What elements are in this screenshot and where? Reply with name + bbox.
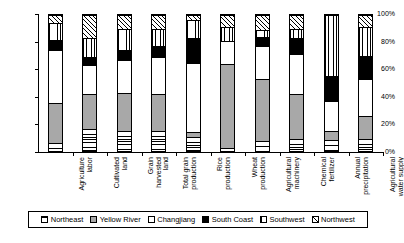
x-axis-label: Grain harvested land <box>147 157 170 203</box>
x-tick-mark <box>176 153 177 156</box>
x-axis-label: Cultivated land <box>113 157 128 203</box>
bar-segment-southwest <box>118 29 131 51</box>
legend-label: South Coast <box>212 216 253 224</box>
bar-segment-changjiang <box>359 79 372 116</box>
x-axis-label: Total grain production <box>182 157 197 203</box>
x-tick-mark <box>383 153 384 156</box>
bar-segment-northeast <box>256 141 269 151</box>
bar-grain-harvested-land <box>117 14 132 152</box>
bar-segment-southwest <box>290 29 303 39</box>
x-tick-mark <box>314 153 315 156</box>
x-tick-mark <box>107 153 108 156</box>
bar-segment-northwest <box>256 15 269 30</box>
bar-segment-yellow-river <box>83 94 96 129</box>
bar-cultivated-land <box>82 14 97 152</box>
legend-swatch-icon <box>90 216 97 223</box>
legend-label: Northeast <box>51 216 84 224</box>
bar-segment-changjiang <box>83 65 96 94</box>
legend-swatch-icon <box>41 216 48 223</box>
legend-item-northwest[interactable]: Northwest <box>312 216 355 224</box>
bar-segment-south-coast <box>152 46 165 57</box>
bar-segment-south-coast <box>325 76 338 100</box>
legend-swatch-icon <box>148 216 155 223</box>
legend-item-southwest[interactable]: Southwest <box>260 216 305 224</box>
bar-segment-northwest <box>83 15 96 38</box>
bar-segment-northeast <box>221 148 234 151</box>
x-tick-mark <box>73 153 74 156</box>
bar-segment-northwest <box>290 15 303 29</box>
bar-segment-changjiang <box>290 54 303 93</box>
bar-agriculture-labor <box>48 14 63 152</box>
bar-segment-yellow-river <box>221 64 234 148</box>
bar-segment-changjiang <box>152 57 165 94</box>
bar-segment-south-coast <box>49 40 62 51</box>
bar-segment-northwest <box>359 15 372 27</box>
bar-segment-yellow-river <box>325 131 338 141</box>
bar-segment-yellow-river <box>359 116 372 139</box>
bar-rice-production <box>186 14 201 152</box>
bar-segment-changjiang <box>256 46 269 79</box>
bar-segment-changjiang <box>118 60 131 93</box>
y-tick-mark <box>35 152 38 153</box>
bar-segment-south-coast <box>256 37 269 47</box>
bar-segment-southwest <box>152 29 165 47</box>
x-axis-label: Wheat production <box>251 157 266 203</box>
bar-segment-northeast <box>118 131 131 151</box>
legend-item-yellow-river[interactable]: Yellow River <box>90 216 141 224</box>
x-tick-mark <box>280 153 281 156</box>
bar-segment-northeast <box>49 143 62 151</box>
bar-segment-changjiang <box>325 101 338 131</box>
legend-swatch-icon <box>312 216 319 223</box>
bar-segment-northwest <box>49 15 62 23</box>
legend-item-northeast[interactable]: Northeast <box>41 216 83 224</box>
legend-label: Changjiang <box>157 216 195 224</box>
chart-legend: NortheastYellow RiverChangjiangSouth Coa… <box>28 211 368 228</box>
bar-segment-southwest <box>49 23 62 39</box>
legend-label: Yellow River <box>100 216 141 224</box>
legend-item-south-coast[interactable]: South Coast <box>202 216 253 224</box>
bar-segment-southwest <box>221 27 234 41</box>
x-tick-mark <box>245 153 246 156</box>
bar-segment-yellow-river <box>49 103 62 142</box>
bar-segment-changjiang <box>49 50 62 103</box>
bar-segment-changjiang <box>187 63 200 132</box>
bar-wheat-production <box>220 14 235 152</box>
bar-segment-yellow-river <box>152 94 165 131</box>
x-tick-mark <box>142 153 143 156</box>
bar-segment-northeast <box>187 137 200 151</box>
bar-segment-northeast <box>83 129 96 151</box>
bar-segment-southwest <box>83 38 96 57</box>
x-axis-label: Rice production <box>216 157 231 203</box>
bar-segment-northeast <box>152 131 165 151</box>
bar-segment-northwest <box>152 15 165 29</box>
bar-segment-south-coast <box>359 56 372 79</box>
x-tick-mark <box>349 153 350 156</box>
bar-segment-south-coast <box>83 57 96 65</box>
legend-swatch-icon <box>260 216 267 223</box>
legend-swatch-icon <box>202 216 209 223</box>
bar-segment-south-coast <box>118 50 131 60</box>
bar-segment-southwest <box>256 30 269 37</box>
bar-segment-northeast <box>359 139 372 151</box>
legend-item-changjiang[interactable]: Changjiang <box>148 216 195 224</box>
x-tick-mark <box>211 153 212 156</box>
bar-segment-south-coast <box>187 38 200 62</box>
bar-segment-northeast <box>325 140 338 151</box>
bar-segment-changjiang <box>221 41 234 64</box>
bar-segment-southwest <box>359 27 372 56</box>
x-axis-label: Agriculture labor <box>78 157 93 203</box>
bar-agricultural-water-supply <box>358 14 373 152</box>
bar-segment-south-coast <box>290 38 303 54</box>
x-axis-label: Annual precipitation <box>354 157 369 203</box>
bar-annual-precipitation <box>324 14 339 152</box>
x-axis-label: Chemical fertilizer <box>320 157 335 203</box>
legend-label: Southwest <box>269 216 304 224</box>
legend-label: Northwest <box>321 216 355 224</box>
plot-area <box>38 14 383 152</box>
x-axis-label: Agricultural machinery <box>285 157 300 203</box>
bar-segment-southwest <box>187 20 200 38</box>
bar-segment-yellow-river <box>290 94 303 139</box>
bar-segment-northeast <box>290 139 303 151</box>
bar-segment-southwest <box>325 15 338 76</box>
